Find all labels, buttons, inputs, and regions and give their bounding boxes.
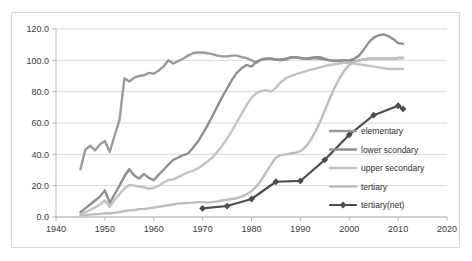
- gridlines: [56, 29, 447, 217]
- data-series: [80, 34, 406, 215]
- series-marker-diamond: [199, 205, 206, 212]
- x-tick-label: 2000: [339, 224, 359, 234]
- x-tick-label: 1980: [241, 224, 261, 234]
- legend-label-tertiary: tertiary: [361, 182, 388, 192]
- legend-label-upper-secondary: upper secondary: [361, 163, 425, 173]
- x-tick-label: 1950: [95, 224, 115, 234]
- y-tick-label: 0.0: [36, 212, 49, 222]
- x-tick-label: 1970: [193, 224, 213, 234]
- y-tick-label: 60.0: [31, 118, 49, 128]
- chart-figure: 0.020.040.060.080.0100.0120.0 1940195019…: [0, 0, 472, 261]
- x-tick-label: 1990: [290, 224, 310, 234]
- y-tick-label: 120.0: [26, 24, 49, 34]
- y-tick-label: 20.0: [31, 181, 49, 191]
- x-tick-label: 2020: [437, 224, 457, 234]
- legend-label-lower-scondary: lower scondary: [361, 145, 419, 155]
- y-axis-tick-labels: 0.020.040.060.080.0100.0120.0: [26, 24, 49, 222]
- legend-marker-diamond: [340, 202, 347, 209]
- line-chart: 0.020.040.060.080.0100.0120.0 1940195019…: [12, 13, 459, 247]
- y-tick-label: 80.0: [31, 87, 49, 97]
- x-tick-label: 1940: [46, 224, 66, 234]
- x-tick-label: 2010: [388, 224, 408, 234]
- chart-plot-frame: 0.020.040.060.080.0100.0120.0 1940195019…: [11, 12, 460, 248]
- x-axis-tick-labels: 194019501960197019801990200020102020: [46, 224, 457, 234]
- legend-label-elementary: elementary: [361, 126, 404, 136]
- y-tick-label: 40.0: [31, 150, 49, 160]
- series-line-tertiary-net: [203, 106, 403, 209]
- y-tick-label: 100.0: [26, 56, 49, 66]
- series-line-upper-secondary: [80, 63, 403, 215]
- series-line-elementary: [80, 53, 403, 170]
- series-marker-diamond: [224, 203, 231, 210]
- legend-label-tertiary-net: tertiary(net): [361, 200, 405, 210]
- x-tick-label: 1960: [144, 224, 164, 234]
